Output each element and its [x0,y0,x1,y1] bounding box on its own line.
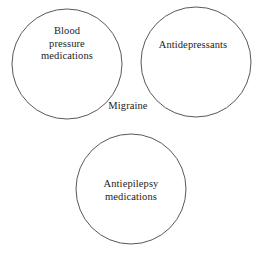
circle-blood-pressure-medications [12,9,122,119]
venn-diagram-figure: Blood pressure medications Antidepressan… [0,0,253,253]
venn-circles-group [0,0,253,253]
circle-antidepressants [141,7,251,117]
circle-antiepilepsy-medications [76,134,186,244]
